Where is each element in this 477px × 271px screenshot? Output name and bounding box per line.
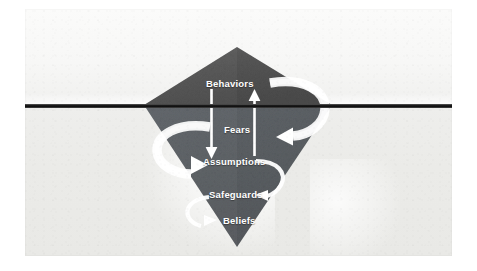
- label-fears: Fears: [224, 125, 250, 135]
- waterline: [25, 104, 452, 108]
- screenshot-root: Behaviors Fears Assumptions Safeguards B…: [0, 0, 477, 271]
- label-behaviors: Behaviors: [206, 79, 254, 89]
- label-assumptions: Assumptions: [203, 157, 265, 167]
- label-safeguards: Safeguards: [209, 190, 263, 200]
- iceberg-diagram-image: Behaviors Fears Assumptions Safeguards B…: [25, 9, 452, 256]
- label-beliefs: Beliefs: [223, 216, 256, 226]
